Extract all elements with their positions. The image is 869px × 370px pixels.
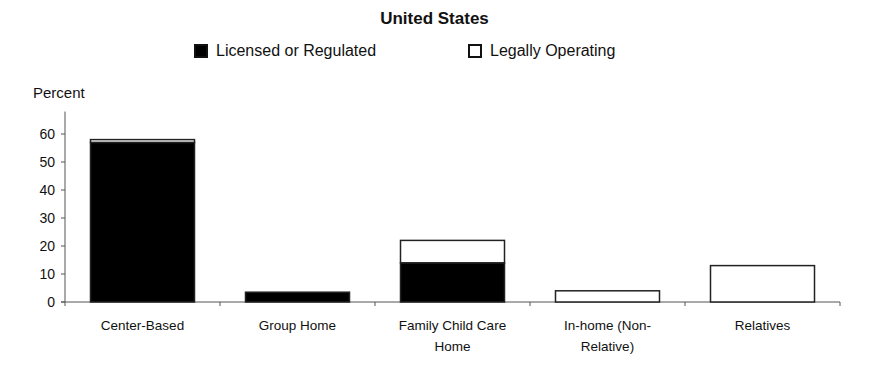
y-tick-label: 0 bbox=[47, 294, 55, 310]
x-tick-label-line: Group Home bbox=[220, 315, 375, 336]
bar-segment bbox=[556, 291, 660, 302]
bar-segment bbox=[711, 266, 815, 302]
x-tick-label-line: Relative) bbox=[530, 336, 685, 357]
bar-segment bbox=[91, 142, 195, 302]
y-tick-label: 50 bbox=[39, 154, 55, 170]
x-tick-label: Relatives bbox=[685, 315, 840, 336]
y-tick-label: 10 bbox=[39, 266, 55, 282]
x-tick-label-line: Family Child Care bbox=[375, 315, 530, 336]
bar-segment bbox=[401, 240, 505, 262]
y-tick-label: 20 bbox=[39, 238, 55, 254]
y-tick-label: 60 bbox=[39, 126, 55, 142]
x-tick-label: Center-Based bbox=[65, 315, 220, 336]
y-tick-label: 30 bbox=[39, 210, 55, 226]
x-tick-label: In-home (Non-Relative) bbox=[530, 315, 685, 357]
x-tick-label: Family Child CareHome bbox=[375, 315, 530, 357]
x-tick-label: Group Home bbox=[220, 315, 375, 336]
bar-segment bbox=[246, 292, 350, 302]
x-tick-label-line: Home bbox=[375, 336, 530, 357]
y-tick-label: 40 bbox=[39, 182, 55, 198]
x-tick-label-line: Center-Based bbox=[65, 315, 220, 336]
x-tick-label-line: In-home (Non- bbox=[530, 315, 685, 336]
bar-segment bbox=[401, 263, 505, 302]
bar-segment bbox=[91, 140, 195, 143]
x-tick-label-line: Relatives bbox=[685, 315, 840, 336]
